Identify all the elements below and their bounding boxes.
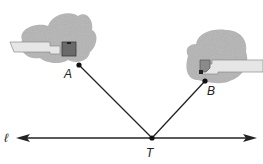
right-building-blob bbox=[186, 30, 263, 84]
line-l bbox=[16, 134, 257, 142]
point-A bbox=[76, 62, 81, 67]
label-B: B bbox=[207, 84, 215, 98]
left-building-blob bbox=[10, 13, 96, 63]
label-line-l: ℓ bbox=[4, 131, 9, 145]
right-box-notch bbox=[199, 70, 203, 74]
reflection-diagram: A B T ℓ bbox=[0, 0, 263, 164]
left-box-notch bbox=[67, 42, 71, 44]
segment-BT bbox=[152, 81, 205, 138]
left-box bbox=[62, 42, 76, 56]
point-B bbox=[202, 78, 207, 83]
segment-AT bbox=[79, 65, 152, 138]
label-A: A bbox=[63, 67, 72, 81]
label-T: T bbox=[146, 146, 155, 160]
point-T bbox=[149, 135, 154, 140]
